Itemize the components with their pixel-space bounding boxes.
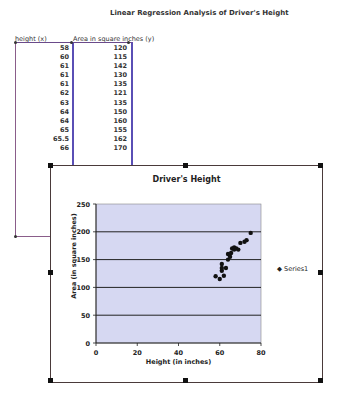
table-cell[interactable]: 60 (9, 53, 69, 62)
resize-handle[interactable] (318, 163, 323, 168)
table-cell[interactable]: 121 (67, 89, 127, 98)
table-cell[interactable]: 162 (67, 135, 127, 144)
svg-text:0: 0 (94, 349, 99, 357)
y-axis-label: Area (in square inches) (70, 201, 78, 311)
resize-handle[interactable] (183, 378, 188, 383)
page-title: Linear Regression Analysis of Driver's H… (110, 9, 289, 17)
table-cell[interactable]: 155 (67, 126, 127, 135)
svg-text:150: 150 (76, 256, 90, 264)
legend-label: Series1 (284, 265, 308, 273)
selection-handle[interactable] (14, 235, 17, 238)
svg-text:100: 100 (76, 284, 90, 292)
resize-handle[interactable] (48, 163, 53, 168)
x-axis-label: Height (in inches) (96, 358, 261, 366)
svg-text:20: 20 (133, 349, 143, 357)
table-cell[interactable]: 130 (67, 71, 127, 80)
svg-text:80: 80 (256, 349, 266, 357)
resize-handle[interactable] (318, 378, 323, 383)
table-cell[interactable]: 65 (9, 126, 69, 135)
table-cell[interactable]: 66 (9, 144, 69, 153)
table-cell[interactable]: 61 (9, 62, 69, 71)
height-column: 5860616161626364646565.566 (9, 44, 69, 153)
table-cell[interactable]: 160 (67, 117, 127, 126)
resize-handle[interactable] (318, 270, 323, 275)
table-cell[interactable]: 135 (67, 99, 127, 108)
table-cell[interactable]: 58 (9, 44, 69, 53)
table-cell[interactable]: 120 (67, 44, 127, 53)
table-cell[interactable]: 135 (67, 80, 127, 89)
legend[interactable]: ◆ Series1 (277, 265, 308, 273)
table-cell[interactable]: 61 (9, 80, 69, 89)
table-cell[interactable]: 115 (67, 53, 127, 62)
table-cell[interactable]: 150 (67, 108, 127, 117)
svg-text:200: 200 (76, 228, 90, 236)
chart-frame[interactable]: Driver's Height 050100150200250020406080… (50, 165, 323, 383)
table-cell[interactable]: 64 (9, 108, 69, 117)
selection-handle[interactable] (127, 41, 130, 44)
table-cell[interactable]: 62 (9, 89, 69, 98)
table-cell[interactable]: 170 (67, 144, 127, 153)
svg-text:250: 250 (76, 201, 90, 209)
table-cell[interactable]: 65.5 (9, 135, 69, 144)
table-cell[interactable]: 64 (9, 117, 69, 126)
svg-text:60: 60 (215, 349, 225, 357)
plot-area: 050100150200250020406080 (51, 166, 322, 382)
table-cell[interactable]: 142 (67, 62, 127, 71)
selection-bracket (15, 236, 51, 237)
diamond-marker-icon: ◆ (277, 265, 282, 273)
area-column: 120115142130135121135150160155162170 (67, 44, 127, 153)
svg-text:40: 40 (174, 349, 184, 357)
table-cell[interactable]: 61 (9, 71, 69, 80)
resize-handle[interactable] (48, 378, 53, 383)
table-cell[interactable]: 63 (9, 99, 69, 108)
svg-text:50: 50 (81, 312, 91, 320)
resize-handle[interactable] (48, 270, 53, 275)
svg-text:0: 0 (85, 340, 90, 348)
resize-handle[interactable] (183, 163, 188, 168)
